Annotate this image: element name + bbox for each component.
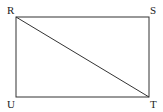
vertex-label-s: S	[150, 4, 156, 16]
vertex-label-r: R	[7, 4, 15, 16]
vertex-label-u: U	[7, 98, 15, 110]
vertex-label-t: T	[150, 98, 157, 110]
diagonal-rt	[16, 17, 149, 97]
rectangle-diagram: R S T U	[0, 0, 163, 112]
